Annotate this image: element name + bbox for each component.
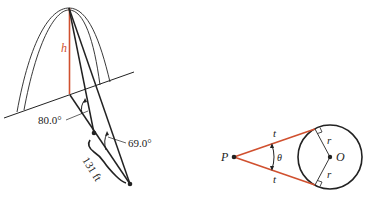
right-angle-marker-bottom (318, 181, 323, 187)
radius-label-top: r (327, 134, 332, 146)
distance-label: 131 ft (80, 155, 104, 183)
observation-point-far (128, 182, 133, 187)
arch-figure: h 80.0° 69.0° 131 ft (4, 8, 152, 186)
tangent-figure: P O t t r r θ (220, 125, 362, 189)
radius-label-bottom: r (327, 168, 332, 180)
leader-line-far (108, 137, 126, 143)
angle-far-label: 69.0° (128, 137, 152, 149)
point-o-label: O (336, 150, 345, 164)
tangent-label-top: t (273, 127, 277, 139)
diagram-canvas: h 80.0° 69.0° 131 ft P O t t r r θ (0, 0, 370, 204)
arch-inner (24, 10, 100, 110)
height-label: h (61, 41, 67, 55)
arrow-icon (105, 131, 109, 136)
point-p-label: P (220, 150, 229, 164)
tangent-label-bottom: t (273, 173, 277, 185)
theta-arc (272, 145, 274, 169)
angle-arc-far (105, 134, 107, 150)
right-angle-marker-top (318, 128, 323, 134)
point-o (328, 155, 332, 159)
observation-point-near (92, 131, 97, 136)
angle-near-label: 80.0° (38, 114, 62, 126)
point-p (232, 155, 237, 160)
theta-label: θ (277, 152, 282, 163)
